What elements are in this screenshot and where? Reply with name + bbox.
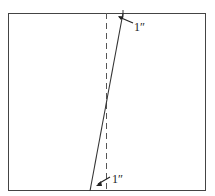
top-label: 1″ (134, 20, 145, 34)
bottom-arrowhead-icon (96, 181, 102, 186)
diagram-canvas: 1″ 1″ (0, 0, 215, 196)
bottom-label: 1″ (112, 172, 123, 186)
